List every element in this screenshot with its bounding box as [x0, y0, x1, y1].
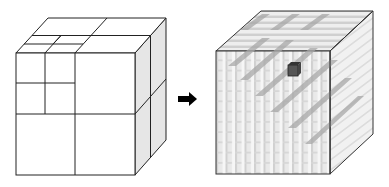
- figure: [0, 0, 389, 187]
- left-cube: [16, 18, 166, 175]
- highlighted-voxel: [288, 62, 301, 76]
- arrow-right-icon: [178, 92, 197, 106]
- right-cube: [216, 11, 373, 174]
